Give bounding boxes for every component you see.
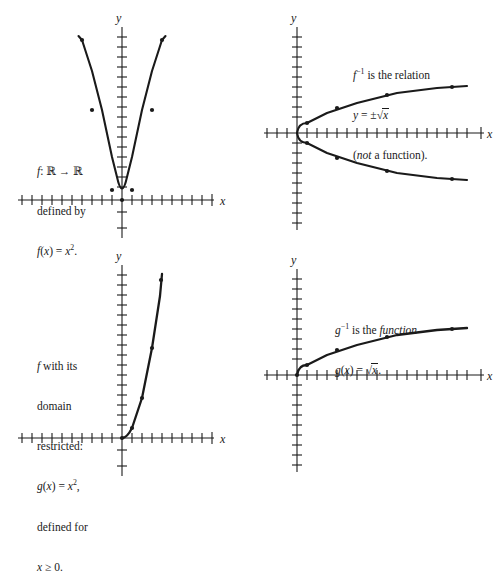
caption-line: defined by: [37, 205, 86, 218]
y-axis-label: y: [290, 11, 297, 25]
caption-line: f: ℝ → ℝ: [37, 165, 86, 178]
x-axis-label: x: [219, 194, 226, 208]
caption-line: f with its: [37, 360, 88, 373]
y-axis-label: y: [290, 253, 297, 267]
x-axis-label: x: [219, 432, 226, 446]
x-axis-label: x: [486, 369, 493, 383]
y-axis-label: y: [115, 11, 122, 25]
caption-line: defined for: [37, 521, 88, 534]
caption-line: y = ±√x: [353, 109, 430, 122]
caption-panel-f: f: ℝ → ℝ defined by f(x) = x2.: [37, 138, 86, 285]
caption-line: restricted:: [37, 440, 88, 453]
y-axis-label: y: [115, 249, 122, 263]
caption-line: x ≥ 0.: [37, 561, 88, 574]
x-axis-label: x: [486, 127, 493, 141]
data-point-markers: [120, 278, 163, 440]
caption-line: f(x) = x2.: [37, 245, 86, 258]
half-parabola-g: [122, 274, 162, 438]
caption-panel-f-inverse: f−1 is the relation y = ±√x (not a funct…: [353, 42, 430, 189]
caption-line: g(x) = √x.: [335, 364, 417, 377]
caption-line: g−1 is the function: [335, 324, 417, 337]
caption-panel-g-inverse: g−1 is the function g(x) = √x.: [335, 297, 417, 404]
caption-line: (not a function).: [353, 149, 430, 162]
caption-line: domain: [37, 400, 88, 413]
caption-panel-g: f with its domain restricted: g(x) = x2,…: [37, 333, 88, 575]
caption-line: g(x) = x2,: [37, 480, 88, 493]
caption-line: f−1 is the relation: [353, 69, 430, 82]
